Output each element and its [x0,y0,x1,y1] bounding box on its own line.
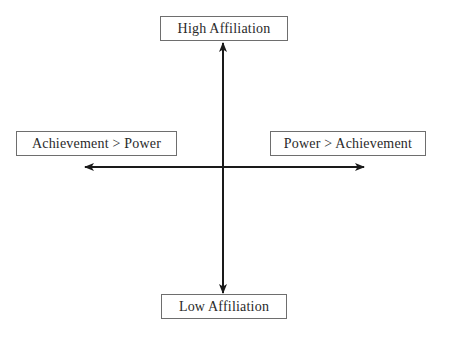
power-over-achievement-text: Power > Achievement [284,136,412,152]
power-over-achievement-label: Power > Achievement [270,131,426,156]
high-affiliation-label: High Affiliation [160,16,288,41]
quadrant-axes [0,0,449,337]
low-affiliation-text: Low Affiliation [179,299,269,315]
low-affiliation-label: Low Affiliation [161,294,287,319]
achievement-over-power-label: Achievement > Power [16,131,177,156]
achievement-over-power-text: Achievement > Power [32,136,161,152]
high-affiliation-text: High Affiliation [178,21,271,37]
